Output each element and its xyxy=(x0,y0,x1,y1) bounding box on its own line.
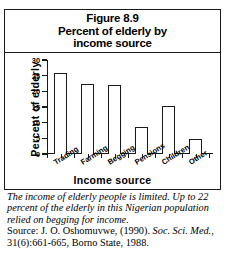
y-tick xyxy=(42,106,47,107)
x-tick xyxy=(47,154,48,158)
y-tick xyxy=(42,122,47,123)
y-tick-label: 0 xyxy=(36,150,40,159)
y-tick xyxy=(42,138,47,139)
figure-number: Figure 8.9 xyxy=(86,12,138,24)
chart-title-box: Figure 8.9 Percent of elderly by income … xyxy=(5,10,220,53)
bar-trading xyxy=(54,73,68,154)
chart-axes: 051015202530 xyxy=(47,60,209,154)
y-tick-label: 5 xyxy=(36,134,40,143)
y-tick-label: 15 xyxy=(32,103,40,112)
x-axis-label: Income source xyxy=(5,174,220,186)
y-tick xyxy=(42,91,47,92)
y-tick-label: 20 xyxy=(32,87,40,96)
y-tick-label: 10 xyxy=(32,118,40,127)
y-tick-label: 25 xyxy=(32,71,40,80)
figure-title-line-1: Percent of elderly by xyxy=(58,25,167,37)
plot-area: Percent of elderly 051015202530 Income s… xyxy=(5,53,220,189)
y-tick xyxy=(42,59,47,60)
bar-farming xyxy=(81,84,95,155)
figure-title-line-2: income source xyxy=(73,37,152,49)
caption-body: The income of elderly people is limited.… xyxy=(7,191,209,225)
caption-source: Source: J. O. Oshomuvwe, (1990). Soc. Sc… xyxy=(7,225,214,247)
y-tick xyxy=(42,75,47,76)
y-axis-line xyxy=(47,60,48,154)
figure-panel: Figure 8.9 Percent of elderly by income … xyxy=(0,0,226,253)
x-tick xyxy=(209,154,210,158)
bar-begging xyxy=(108,85,122,154)
caption-source-journal: Soc. Sci. Med. xyxy=(153,225,212,236)
chart-frame: Figure 8.9 Percent of elderly by income … xyxy=(4,9,221,190)
figure-caption: The income of elderly people is limited.… xyxy=(7,191,221,248)
y-tick-label: 30 xyxy=(32,56,40,65)
caption-source-prefix: Source: J. O. Oshomuvwe, (1990). xyxy=(7,225,153,236)
